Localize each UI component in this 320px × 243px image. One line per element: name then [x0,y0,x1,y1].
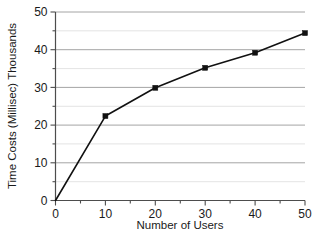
x-tick-label: 50 [298,207,312,221]
x-tick-label: 10 [99,207,113,221]
y-tick-label: 30 [34,81,48,95]
data-point-marker [103,114,108,119]
x-tick-label: 0 [52,207,59,221]
y-tick-label: 10 [34,156,48,170]
line-chart-figure: 01020304050 01020304050 Number of Users … [0,0,320,243]
x-tick-label: 40 [248,207,262,221]
x-axis-ticks [56,201,306,206]
y-tick-label: 40 [34,43,48,57]
y-axis-tick-labels: 01020304050 [34,5,48,208]
x-axis-title: Number of Users [137,219,224,231]
y-axis-title: Time Costs (Millisec) Thousands [6,23,18,189]
y-tick-label: 20 [34,118,48,132]
y-tick-label: 0 [41,194,48,208]
data-point-marker [153,85,158,90]
major-gridlines [56,12,306,163]
data-point-marker [253,50,258,55]
minor-gridlines [56,31,306,182]
data-series [56,31,308,201]
data-point-marker [203,65,208,70]
series-line-time-costs [56,33,306,200]
chart-canvas: 01020304050 01020304050 Number of Users … [0,0,320,243]
y-tick-label: 50 [34,5,48,19]
data-point-marker [303,31,308,36]
y-axis-ticks [51,12,56,201]
